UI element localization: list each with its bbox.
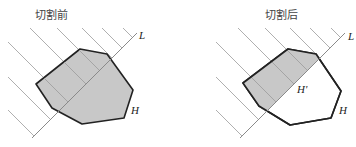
diagram-canvas: 切割前 [0, 0, 356, 147]
panel-after: 切割后 L H' H [216, 8, 354, 138]
label-h-before: H [130, 104, 140, 116]
label-h-prime: H' [296, 83, 308, 95]
panel-before: 切割前 [8, 8, 145, 138]
label-l-after: L [347, 30, 354, 42]
label-h-after: H [338, 104, 348, 116]
label-l-before: L [138, 29, 145, 41]
panel-title-after: 切割后 [265, 8, 298, 22]
panel-title-before: 切割前 [35, 8, 68, 22]
polygon-h [36, 49, 133, 124]
